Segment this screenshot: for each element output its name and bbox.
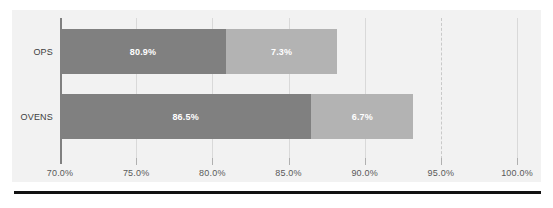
x-axis-tick-label: 85.0% xyxy=(275,168,302,178)
bar-segment[interactable]: 86.5% xyxy=(60,94,311,139)
plot-area: 70.0%75.0%80.0%85.0%90.0%95.0%100.0% OPS… xyxy=(12,10,541,182)
x-axis-tick-label: 95.0% xyxy=(428,168,455,178)
axis-tickmark xyxy=(136,158,137,165)
x-axis-tick-label: 100.0% xyxy=(501,168,533,178)
target-line xyxy=(441,18,442,164)
x-axis-tick-label: 90.0% xyxy=(351,168,378,178)
bar-segment[interactable]: 6.7% xyxy=(311,94,413,139)
axis-tickmark xyxy=(212,158,213,165)
bar-segment[interactable]: 80.9% xyxy=(60,29,226,74)
bar-value-label: 80.9% xyxy=(130,47,157,57)
axis-tickmark xyxy=(517,158,518,165)
bar-group-ops[interactable]: OPS80.9%7.3% xyxy=(60,29,337,74)
x-axis-tick-label: 70.0% xyxy=(47,168,74,178)
axis-tickmark xyxy=(441,158,442,165)
axis-tickmark xyxy=(365,158,366,165)
x-axis-tick-label: 80.0% xyxy=(199,168,226,178)
category-label: OVENS xyxy=(20,112,53,122)
bottom-rule-divider xyxy=(14,191,541,194)
category-label: OPS xyxy=(33,47,53,57)
stacked-bar-chart: 70.0%75.0%80.0%85.0%90.0%95.0%100.0% OPS… xyxy=(0,0,553,208)
bar-group-ovens[interactable]: OVENS86.5%6.7% xyxy=(60,94,413,139)
x-axis-tick-label: 75.0% xyxy=(123,168,150,178)
bar-segment[interactable]: 7.3% xyxy=(226,29,337,74)
gridline xyxy=(517,18,518,164)
gridline xyxy=(365,18,366,164)
bar-value-label: 7.3% xyxy=(271,47,292,57)
axis-tickmark xyxy=(289,158,290,165)
bar-value-label: 6.7% xyxy=(352,112,373,122)
bar-value-label: 86.5% xyxy=(172,112,199,122)
